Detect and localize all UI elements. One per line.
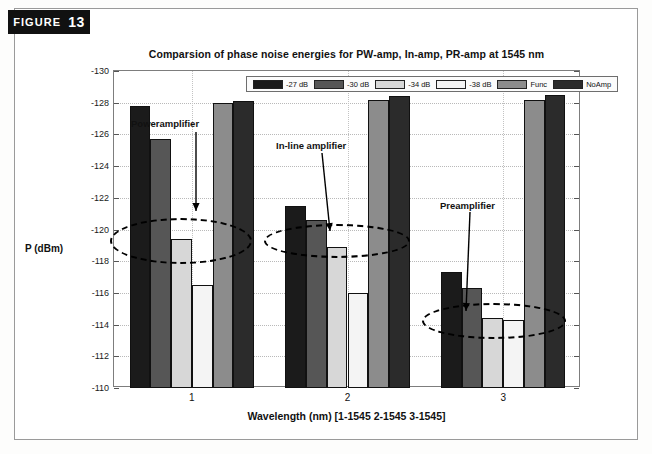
- legend-label: Func: [530, 80, 547, 89]
- legend-item--38-db: -38 dB: [433, 80, 494, 89]
- legend-swatch: [497, 80, 527, 89]
- figure-badge-word: FIGURE: [13, 16, 61, 28]
- legend-item--30-db: -30 dB: [311, 80, 372, 89]
- legend-item-func: Func: [494, 80, 550, 89]
- legend-item--34-db: -34 dB: [372, 80, 433, 89]
- figure-badge: FIGURE 13: [8, 10, 90, 34]
- figure-root: FIGURE 13 Comparsion of phase noise ener…: [0, 0, 652, 454]
- legend-label: -27 dB: [286, 80, 308, 89]
- legend-swatch: [436, 80, 466, 89]
- legend-label: -30 dB: [347, 80, 369, 89]
- legend-item--27-db: -27 dB: [250, 80, 311, 89]
- legend-label: NoAmp: [586, 80, 611, 89]
- annotation-label-preamplifier: Preamplifier: [440, 200, 495, 211]
- legend-swatch: [553, 80, 583, 89]
- legend-label: -34 dB: [408, 80, 430, 89]
- legend-item-noamp: NoAmp: [550, 80, 614, 89]
- legend-label: -38 dB: [469, 80, 491, 89]
- legend-swatch: [314, 80, 344, 89]
- legend-swatch: [253, 80, 283, 89]
- annotation-arrow-3: [0, 0, 652, 454]
- legend-swatch: [375, 80, 405, 89]
- figure-badge-number: 13: [68, 14, 85, 30]
- chart-legend: -27 dB-30 dB-34 dB-38 dBFuncNoAmp: [246, 76, 618, 92]
